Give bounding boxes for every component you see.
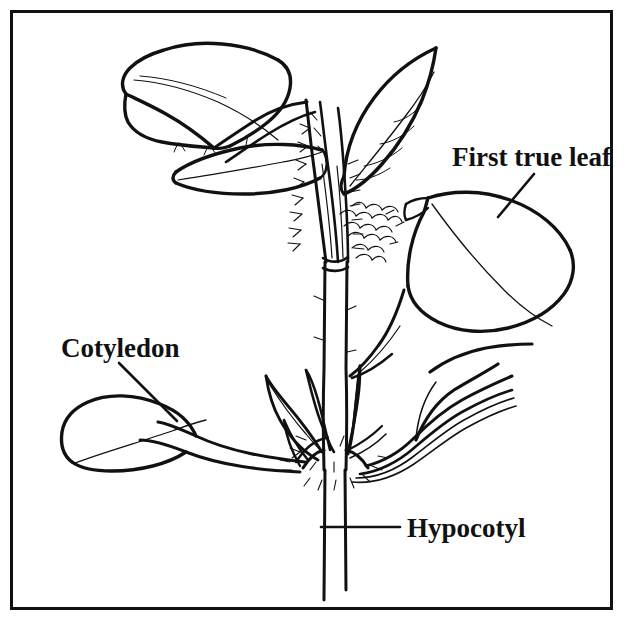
label-cotyledon: Cotyledon: [61, 333, 180, 364]
seedling-diagram: [0, 0, 635, 635]
label-first-true-leaf: First true leaf: [452, 142, 611, 173]
figure-canvas: First true leaf Cotyledon Hypocotyl: [0, 0, 635, 635]
label-hypocotyl: Hypocotyl: [407, 513, 526, 544]
